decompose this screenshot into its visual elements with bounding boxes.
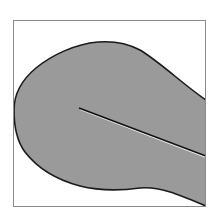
diagram-figure (0, 0, 223, 214)
body-shape (14, 42, 206, 206)
